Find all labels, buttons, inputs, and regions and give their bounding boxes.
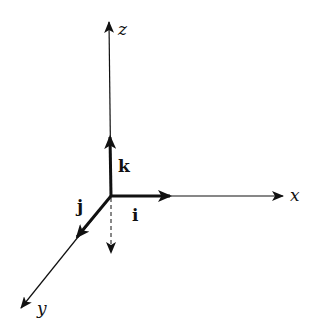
k-vector-label: k bbox=[118, 156, 131, 176]
j-vector-label: j bbox=[75, 196, 83, 216]
coordinate-diagram: z x y k i j bbox=[0, 0, 319, 328]
x-axis-label: x bbox=[290, 185, 300, 205]
z-axis-label: z bbox=[117, 19, 128, 39]
y-axis-label: y bbox=[36, 298, 47, 318]
i-vector-label: i bbox=[132, 205, 139, 225]
k-vector bbox=[110, 137, 111, 196]
